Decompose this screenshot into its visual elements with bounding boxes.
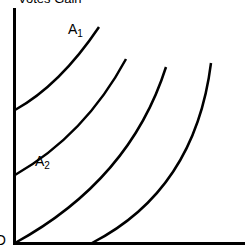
curve-label-a1: A1 bbox=[68, 22, 83, 39]
curve-4 bbox=[92, 63, 211, 243]
curve-2 bbox=[15, 59, 126, 175]
indifference-curve-diagram: Votes Gain A1 A2 O bbox=[0, 0, 245, 249]
label-a1-main: A bbox=[68, 21, 77, 37]
label-a2-main: A bbox=[35, 153, 44, 169]
label-a2-sub: 2 bbox=[44, 160, 50, 171]
diagram-plot bbox=[0, 0, 245, 249]
label-a1-sub: 1 bbox=[77, 28, 83, 39]
curve-label-a2: A2 bbox=[35, 154, 50, 171]
origin-label: O bbox=[0, 232, 6, 248]
curve-1 bbox=[15, 27, 99, 110]
